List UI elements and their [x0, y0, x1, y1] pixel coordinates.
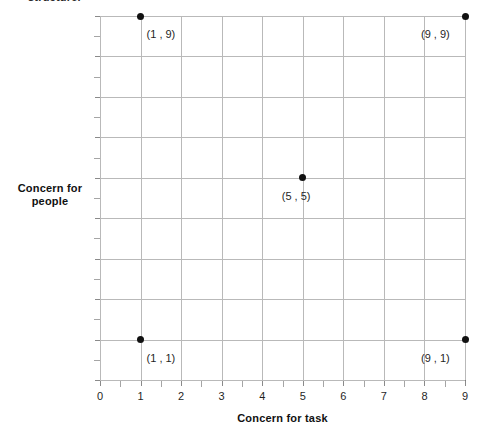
x-tick-label: 4	[250, 390, 274, 402]
y-tick-minor	[94, 319, 100, 320]
x-tick-minor	[445, 381, 446, 387]
gridline-vertical	[141, 16, 142, 380]
gridline-horizontal	[100, 97, 465, 98]
y-tick-major	[95, 340, 100, 341]
y-tick-minor	[94, 158, 100, 159]
x-tick-major	[384, 381, 385, 386]
gridline-vertical	[424, 16, 425, 380]
gridline-vertical	[262, 16, 263, 380]
gridline-horizontal	[100, 299, 465, 300]
x-tick-minor	[242, 381, 243, 387]
data-point-label: (1 , 9)	[147, 28, 176, 40]
top-caption: structure.	[28, 0, 81, 3]
x-tick-major	[343, 381, 344, 386]
y-tick-major	[95, 56, 100, 57]
y-tick-minor	[94, 117, 100, 118]
x-tick-minor	[161, 381, 162, 387]
y-tick-minor	[94, 360, 100, 361]
x-tick-minor	[404, 381, 405, 387]
gridline-vertical	[100, 16, 101, 380]
x-tick-minor	[201, 381, 202, 387]
data-point[interactable]	[137, 336, 144, 343]
gridline-vertical	[343, 16, 344, 380]
data-point-label: (1 , 1)	[147, 352, 176, 364]
y-axis-title-line-1: Concern for	[8, 182, 92, 195]
data-point-label: (5 , 5)	[282, 190, 311, 202]
y-tick-minor	[94, 279, 100, 280]
x-tick-minor	[364, 381, 365, 387]
x-tick-minor	[120, 381, 121, 387]
gridline-horizontal	[100, 178, 465, 179]
y-tick-minor	[94, 238, 100, 239]
x-tick-label: 5	[291, 390, 315, 402]
y-tick-major	[95, 137, 100, 138]
chart-page: structure. 01234567890123456789(1 , 9)(9…	[0, 0, 485, 437]
y-tick-major	[95, 178, 100, 179]
gridline-horizontal	[100, 16, 465, 17]
y-axis-title: Concern for people	[8, 182, 92, 208]
x-tick-major	[424, 381, 425, 386]
y-tick-major	[95, 259, 100, 260]
data-point[interactable]	[137, 13, 144, 20]
y-tick-major	[95, 97, 100, 98]
gridline-vertical	[181, 16, 182, 380]
plot-area: 01234567890123456789(1 , 9)(9 , 9)(5 , 5…	[100, 16, 465, 380]
x-tick-minor	[323, 381, 324, 387]
x-tick-label: 6	[331, 390, 355, 402]
x-tick-major	[100, 381, 101, 386]
x-tick-minor	[283, 381, 284, 387]
gridline-horizontal	[100, 137, 465, 138]
x-tick-major	[222, 381, 223, 386]
x-tick-major	[465, 381, 466, 386]
y-tick-major	[95, 218, 100, 219]
x-tick-label: 8	[412, 390, 436, 402]
x-tick-label: 9	[453, 390, 477, 402]
y-tick-major	[95, 16, 100, 17]
gridline-horizontal	[100, 218, 465, 219]
data-point-label: (9 , 9)	[421, 28, 450, 40]
y-tick-minor	[94, 77, 100, 78]
x-tick-label: 3	[210, 390, 234, 402]
x-axis-title: Concern for task	[100, 412, 465, 424]
gridline-vertical	[465, 16, 466, 380]
x-tick-major	[303, 381, 304, 386]
y-tick-minor	[94, 198, 100, 199]
x-tick-label: 7	[372, 390, 396, 402]
x-tick-major	[141, 381, 142, 386]
gridline-horizontal	[100, 259, 465, 260]
data-point-label: (9 , 1)	[421, 352, 450, 364]
x-tick-label: 0	[88, 390, 112, 402]
gridline-vertical	[222, 16, 223, 380]
x-tick-major	[181, 381, 182, 386]
gridline-horizontal	[100, 340, 465, 341]
data-point[interactable]	[462, 336, 469, 343]
data-point[interactable]	[299, 174, 306, 181]
gridline-vertical	[384, 16, 385, 380]
y-tick-minor	[94, 36, 100, 37]
y-axis-title-line-2: people	[8, 195, 92, 208]
x-tick-label: 2	[169, 390, 193, 402]
y-tick-major	[95, 299, 100, 300]
data-point[interactable]	[462, 13, 469, 20]
gridline-horizontal	[100, 56, 465, 57]
x-tick-major	[262, 381, 263, 386]
x-tick-label: 1	[129, 390, 153, 402]
